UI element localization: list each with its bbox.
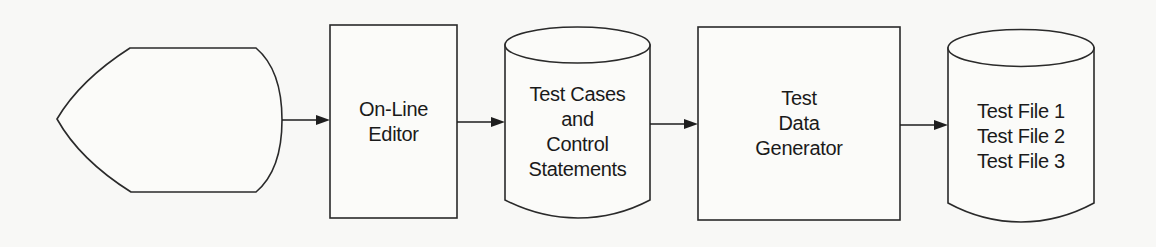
test-file-2-label: Test File 2 [977,124,1065,149]
arrow-generator-to-test-files [900,120,948,130]
editor-label: On-Line Editor [330,25,457,218]
test-cases-label: Test Cases and Control Statements [505,62,650,202]
test-files-label: Test File 1 Test File 2 Test File 3 [948,66,1094,206]
generator-label: Test Data Generator [698,27,900,220]
generator-label-line-1: Test [781,86,816,111]
editor-label-line-1: On-Line [359,97,428,122]
test-cases-label-line-4: Statements [528,157,626,182]
editor-label-line-2: Editor [368,122,418,147]
test-cases-label-line-3: Control [546,132,608,157]
display-shape [57,48,282,192]
test-cases-label-line-1: Test Cases [530,82,626,107]
test-file-1-label: Test File 1 [977,99,1065,124]
test-file-3-label: Test File 3 [977,149,1065,174]
arrow-editor-to-test-cases [457,117,505,127]
generator-label-line-2: Data [778,111,819,136]
test-cases-label-line-2: and [561,107,593,132]
arrow-display-to-editor [282,115,330,125]
arrow-test-cases-to-generator [650,119,698,129]
generator-label-line-3: Generator [755,136,842,161]
